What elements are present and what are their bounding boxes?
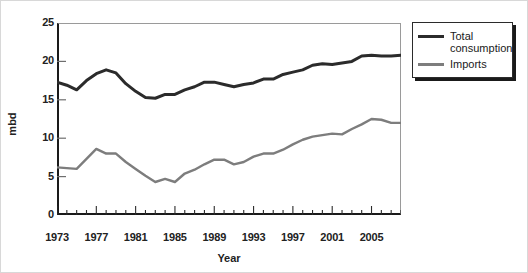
legend-item: Total consumption bbox=[418, 30, 506, 54]
legend-item: Imports bbox=[418, 58, 506, 70]
y-tick-label: 0 bbox=[20, 208, 54, 220]
x-tick-label: 1977 bbox=[74, 231, 118, 243]
y-tick-label: 10 bbox=[20, 131, 54, 143]
legend-label-total-consumption: Total consumption bbox=[450, 30, 512, 54]
x-axis-title: Year bbox=[57, 252, 401, 264]
x-tick-label: 1993 bbox=[232, 231, 276, 243]
chart-legend: Total consumption Imports bbox=[412, 22, 513, 78]
y-tick-label: 5 bbox=[20, 170, 54, 182]
legend-label-imports: Imports bbox=[450, 58, 487, 70]
y-tick-label: 15 bbox=[20, 93, 54, 105]
x-tick-label: 2001 bbox=[310, 231, 354, 243]
x-tick-label: 2005 bbox=[350, 231, 394, 243]
x-tick-label: 1985 bbox=[153, 231, 197, 243]
x-tick-label: 1989 bbox=[192, 231, 236, 243]
chart-figure: 0510152025 mbd 1973197719811985198919931… bbox=[0, 0, 528, 273]
legend-line-swatch-imports bbox=[418, 59, 444, 70]
y-axis-title: mbd bbox=[6, 99, 18, 149]
plot-svg bbox=[57, 23, 401, 215]
plot-area bbox=[57, 23, 401, 215]
x-tick-label: 1973 bbox=[35, 231, 79, 243]
x-tick-label: 1997 bbox=[271, 231, 315, 243]
legend-line-swatch-total-consumption bbox=[418, 31, 444, 42]
y-tick-label: 20 bbox=[20, 54, 54, 66]
x-tick-label: 1981 bbox=[114, 231, 158, 243]
y-tick-label: 25 bbox=[20, 16, 54, 28]
series-line-imports bbox=[57, 119, 401, 182]
series-line-total-consumption bbox=[57, 55, 401, 98]
